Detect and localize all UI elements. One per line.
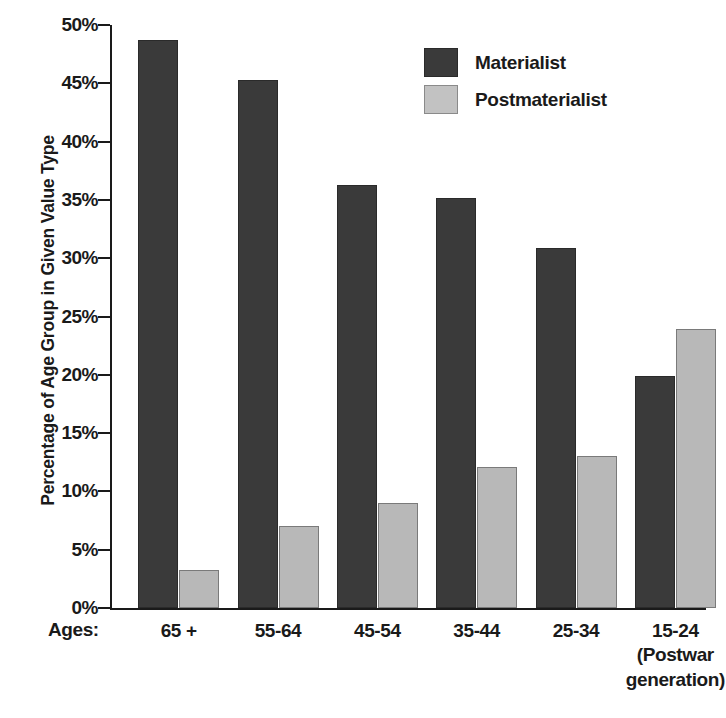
x-axis-tick-label: 15-24(Postwargeneration) bbox=[605, 619, 726, 692]
legend-item-label: Postmaterialist bbox=[475, 89, 607, 111]
x-axis-tick-label-text: 25-34 bbox=[553, 620, 600, 641]
y-axis-tick-mark bbox=[98, 490, 110, 492]
x-axis-tick-label-text: 65 + bbox=[161, 620, 197, 641]
x-axis-tick-label-text: 15-24 bbox=[652, 620, 699, 641]
legend-item: Postmaterialist bbox=[424, 85, 704, 114]
bar bbox=[337, 185, 377, 608]
x-axis-tick-label-text: 55-64 bbox=[255, 620, 302, 641]
x-axis-tick-sublabel: (Postwar bbox=[605, 643, 726, 667]
y-axis-tick-mark bbox=[98, 199, 110, 201]
x-axis-tick-label-text: 35-44 bbox=[453, 620, 500, 641]
bar-chart: Percentage of Age Group in Given Value T… bbox=[0, 0, 726, 718]
chart-legend: MaterialistPostmaterialist bbox=[424, 48, 704, 122]
x-axis-line bbox=[110, 608, 706, 610]
legend-item-label: Materialist bbox=[475, 52, 566, 74]
y-axis-tick-label: 50% bbox=[34, 15, 98, 34]
bar bbox=[138, 40, 178, 608]
y-axis-tick-label: 40% bbox=[34, 132, 98, 151]
bar bbox=[577, 456, 617, 608]
bar bbox=[635, 376, 675, 608]
y-axis-tick-labels: 0%5%10%15%20%25%30%35%40%45%50% bbox=[30, 0, 98, 718]
y-axis-tick-mark bbox=[98, 24, 110, 26]
x-axis-tick-labels: 65 +55-6445-5435-4425-3415-24(Postwargen… bbox=[110, 619, 706, 718]
y-axis-tick-label: 45% bbox=[34, 73, 98, 92]
bar bbox=[279, 526, 319, 608]
legend-color-swatch bbox=[424, 48, 458, 77]
y-axis-tick-label: 0% bbox=[34, 598, 98, 617]
bar bbox=[238, 80, 278, 608]
y-axis-tick-mark bbox=[98, 257, 110, 259]
x-axis-tick-sublabel: generation) bbox=[605, 668, 726, 692]
y-axis-tick-mark bbox=[98, 316, 110, 318]
bar bbox=[378, 503, 418, 608]
y-axis-tick-mark bbox=[98, 607, 110, 609]
y-axis-tick-label: 30% bbox=[34, 248, 98, 267]
legend-color-swatch bbox=[424, 85, 458, 114]
y-axis-tick-mark bbox=[98, 82, 110, 84]
bar bbox=[536, 248, 576, 608]
y-axis-tick-mark bbox=[98, 549, 110, 551]
x-axis-tick-label-text: 45-54 bbox=[354, 620, 401, 641]
y-axis-tick-label: 15% bbox=[34, 423, 98, 442]
bar bbox=[477, 467, 517, 608]
bar bbox=[436, 198, 476, 608]
y-axis-tick-label: 20% bbox=[34, 365, 98, 384]
y-axis-tick-mark bbox=[98, 432, 110, 434]
y-axis-tick-label: 25% bbox=[34, 307, 98, 326]
legend-item: Materialist bbox=[424, 48, 704, 77]
y-axis-tick-label: 10% bbox=[34, 481, 98, 500]
y-axis-tick-mark bbox=[98, 374, 110, 376]
x-axis-prefix-label: Ages: bbox=[48, 619, 99, 641]
y-axis-tick-mark bbox=[98, 141, 110, 143]
y-axis-tick-label: 35% bbox=[34, 190, 98, 209]
bar bbox=[676, 329, 716, 608]
y-axis-tick-label: 5% bbox=[34, 540, 98, 559]
bar bbox=[179, 570, 219, 608]
